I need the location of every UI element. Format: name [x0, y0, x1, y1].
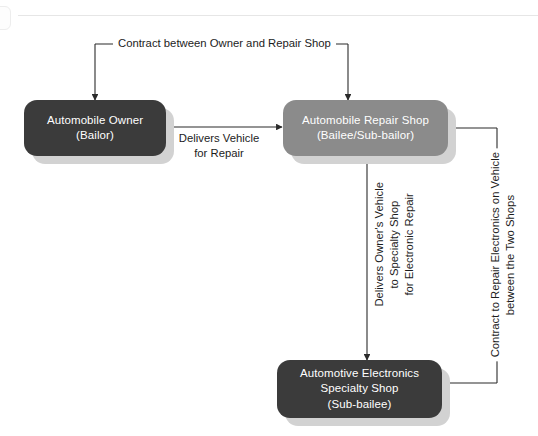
edge-label-contract-owner-repair: Contract between Owner and Repair Shop — [113, 36, 336, 51]
edge-contract-owner-repair — [95, 44, 348, 100]
node-electronics-specialty-shop[interactable]: Automotive Electronics Specialty Shop (S… — [277, 360, 442, 418]
edge-label-delivers-vehicle: Delivers Vehicle for Repair — [166, 131, 272, 161]
node-automobile-repair-shop[interactable]: Automobile Repair Shop (Bailee/Sub-bailo… — [283, 100, 448, 156]
edge-label-contract-two-shops: Contract to Repair Electronics on Vehicl… — [488, 148, 518, 361]
node-owner-label: Automobile Owner (Bailor) — [41, 113, 149, 143]
node-automobile-owner[interactable]: Automobile Owner (Bailor) — [24, 100, 166, 156]
diagram-canvas: Automobile Owner (Bailor) Automobile Rep… — [0, 0, 538, 436]
edge-label-delivers-specialty: Delivers Owner's Vehicle to Specialty Sh… — [372, 178, 417, 311]
node-repair-shop-label: Automobile Repair Shop (Bailee/Sub-bailo… — [296, 113, 435, 143]
connector-lines — [0, 0, 538, 436]
node-specialty-shop-label: Automotive Electronics Specialty Shop (S… — [294, 366, 425, 412]
